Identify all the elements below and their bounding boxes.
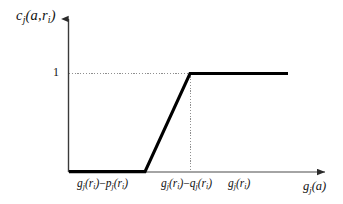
xtick2-open: (r xyxy=(236,177,244,189)
xtick0-close2: ) xyxy=(124,177,128,189)
x-axis-title: gj(a) xyxy=(303,180,326,193)
y-tick-label-one: 1 xyxy=(53,66,59,78)
plot-canvas xyxy=(0,0,343,204)
xtick1-r-sub2: i xyxy=(206,182,208,191)
xtick1-close2: ) xyxy=(208,177,212,189)
y-axis-title: cj(a,ri) xyxy=(16,8,56,23)
xtick0-p: p xyxy=(106,177,112,189)
xtick0-open2: (r xyxy=(114,177,122,189)
x-tick-label-lower-threshold: gj(ri)−pj(ri) xyxy=(77,178,128,190)
xtick2-g-sub: j xyxy=(234,182,236,191)
xtick0-p-sub: j xyxy=(112,182,114,191)
y-axis-title-base: c xyxy=(16,7,23,23)
xtick0-r-sub2: i xyxy=(122,182,124,191)
xtick1-g: g xyxy=(161,177,167,189)
y-axis-title-close: ) xyxy=(51,7,56,23)
xtick1-q: q xyxy=(190,177,196,189)
xtick1-q-sub: j xyxy=(196,182,198,191)
x-tick-label-reference-value: gj(ri) xyxy=(228,178,250,190)
xtick0-g: g xyxy=(77,177,83,189)
x-axis-title-close: (a) xyxy=(312,179,327,193)
xtick2-g: g xyxy=(228,177,234,189)
xtick1-g-sub: j xyxy=(167,182,169,191)
xtick2-close: ) xyxy=(246,177,250,189)
xtick1-open2: (r xyxy=(198,177,206,189)
xtick1-open: (r xyxy=(169,177,177,189)
figure-container: cj(a,ri) 1 gj(ri)−pj(ri) gj(ri)−qj(ri) g… xyxy=(0,0,343,204)
x-tick-label-upper-threshold: gj(ri)−qj(ri) xyxy=(161,178,212,190)
xtick0-open: (r xyxy=(85,177,93,189)
y-axis-title-args: (a,r xyxy=(26,7,48,23)
concordance-curve xyxy=(69,74,288,172)
xtick0-g-sub: j xyxy=(83,182,85,191)
x-axis-title-subscript: j xyxy=(309,185,311,195)
y-axis-title-args-subscript: i xyxy=(48,14,51,25)
y-axis-title-subscript: j xyxy=(23,14,26,25)
